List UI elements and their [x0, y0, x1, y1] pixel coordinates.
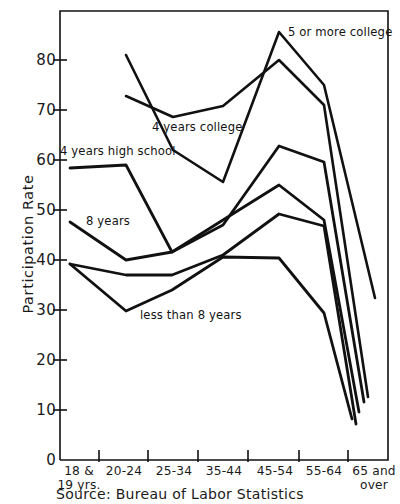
- series-label-4-years-college: 4 years college: [152, 122, 242, 134]
- y-tick-label-70: 70: [22, 103, 56, 118]
- y-tick-label-30: 30: [22, 303, 56, 318]
- y-tick-label-10: 10: [22, 403, 56, 418]
- y-tick-label-20: 20: [22, 353, 56, 368]
- y-tick-label-40: 40: [22, 253, 56, 268]
- series-label-4-years-high-school: 4 years high school: [60, 146, 176, 158]
- y-tick-label-60: 60: [22, 153, 56, 168]
- source-caption: Source: Bureau of Labor Statistics: [56, 486, 304, 502]
- x-tick-label-65-and-over: 65 and over: [350, 464, 398, 492]
- y-axis-tick-labels: 80 70 60 50 40 30 20 10 0: [18, 0, 56, 504]
- plot-area: [0, 0, 400, 504]
- x-tick-label-20-24: 20-24: [101, 464, 147, 478]
- series-label-5-or-more-college: 5 or more college: [288, 27, 392, 39]
- series-label-less-than-8-years: less than 8 years: [140, 310, 242, 322]
- x-tick-label-55-64: 55-64: [301, 464, 347, 478]
- chart-figure: Participation Rate 80 70 60 50 40 30 20 …: [0, 0, 400, 504]
- y-tick-label-80: 80: [22, 53, 56, 68]
- series-label-8-years: 8 years: [86, 216, 130, 228]
- y-tick-label-50: 50: [22, 203, 56, 218]
- x-tick-label-45-54: 45-54: [252, 464, 298, 478]
- x-tick-label-25-34: 25-34: [151, 464, 197, 478]
- axis-frame: [60, 11, 388, 460]
- series-line-lowest: [70, 257, 352, 419]
- x-tick-label-35-44: 35-44: [201, 464, 247, 478]
